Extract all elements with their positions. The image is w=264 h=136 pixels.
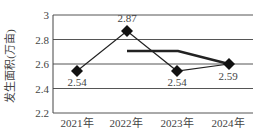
x-ticks: 2021年 2022年 2023年 2024年 bbox=[61, 116, 245, 129]
chart: 2.2 2.4 2.6 2.8 3 发生面积(万亩) 2021年 2022年 2… bbox=[0, 0, 264, 136]
y-ticks: 2.2 2.4 2.6 2.8 3 bbox=[35, 9, 49, 119]
x-tick: 2024年 bbox=[212, 116, 245, 129]
diamond-marker bbox=[121, 25, 133, 37]
data-label: 2.87 bbox=[117, 12, 137, 24]
y-axis-label: 发生面积(万亩) bbox=[3, 29, 17, 103]
x-tick: 2022年 bbox=[110, 116, 143, 129]
y-tick: 2.2 bbox=[35, 107, 49, 119]
y-tick: 2.4 bbox=[35, 83, 49, 95]
data-label: 2.59 bbox=[218, 70, 238, 82]
x-tick: 2021年 bbox=[61, 116, 94, 129]
y-tick: 2.6 bbox=[35, 58, 49, 70]
y-tick: 3 bbox=[44, 9, 50, 21]
series-thick-line bbox=[127, 51, 229, 64]
x-tick: 2023年 bbox=[161, 116, 194, 129]
data-label: 2.54 bbox=[67, 76, 87, 88]
y-tick: 2.8 bbox=[35, 34, 49, 46]
data-label: 2.54 bbox=[167, 76, 187, 88]
diamond-marker bbox=[223, 58, 235, 70]
